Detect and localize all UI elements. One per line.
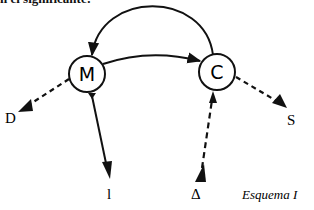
label-l: l xyxy=(107,186,111,202)
label-d: D xyxy=(5,110,16,126)
triangle-delta-icon xyxy=(195,164,206,182)
node-c-label: C xyxy=(210,61,223,83)
arrow-m-to-l xyxy=(92,96,107,168)
arrow-m-to-c xyxy=(103,55,200,64)
schema-diagram: M C D S l Δ Esquema I xyxy=(0,0,314,210)
node-m-label: M xyxy=(79,63,95,85)
node-m: M xyxy=(69,56,105,92)
dashed-arrow-c-to-s xyxy=(236,77,280,103)
schema-title: Esquema I xyxy=(241,187,298,202)
label-delta: Δ xyxy=(191,186,201,202)
label-s: S xyxy=(287,112,295,128)
arrowhead-s-icon xyxy=(272,94,287,108)
node-c: C xyxy=(199,54,235,90)
arc-c-to-m xyxy=(92,6,213,55)
arrowhead-c-bottom-icon xyxy=(209,91,217,103)
arrowhead-l-icon xyxy=(102,161,112,179)
triangle-d-icon xyxy=(18,99,33,112)
dashed-arrow-delta-to-c xyxy=(202,100,212,168)
